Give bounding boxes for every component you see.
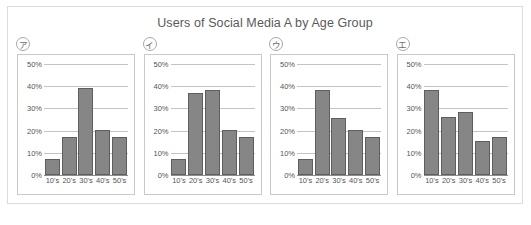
y-axis-tick-label: 0% xyxy=(158,171,169,180)
bar xyxy=(492,137,507,175)
bar xyxy=(315,90,330,175)
chart-panel-3: ウ0%10%20%30%40%50%10's20's30's40's50's xyxy=(266,37,393,197)
x-axis-tick-label: 20's xyxy=(188,176,203,185)
y-axis-tick-label: 20% xyxy=(406,126,421,135)
y-axis-tick-label: 50% xyxy=(280,60,295,69)
bar-slot xyxy=(62,64,77,175)
plot-area: 0%10%20%30%40%50%10's20's30's40's50's xyxy=(424,64,510,175)
plot-area: 0%10%20%30%40%50%10's20's30's40's50's xyxy=(171,64,257,175)
y-axis-tick-label: 20% xyxy=(153,126,168,135)
y-axis-tick-label: 40% xyxy=(27,82,42,91)
bar-slot xyxy=(171,64,186,175)
bar-slot xyxy=(78,64,93,175)
y-axis-tick-label: 0% xyxy=(31,171,42,180)
x-axis-tick-label: 30's xyxy=(331,176,346,185)
chart-panel-group: ア0%10%20%30%40%50%10's20's30's40's50'sイ0… xyxy=(13,37,519,197)
x-axis-tick-labels: 10's20's30's40's50's xyxy=(171,176,255,185)
bar-slot xyxy=(331,64,346,175)
chart-panel-1: ア0%10%20%30%40%50%10's20's30's40's50's xyxy=(13,37,140,197)
x-axis-tick-label: 40's xyxy=(348,176,363,185)
bar-slot xyxy=(424,64,439,175)
bar-slot xyxy=(441,64,456,175)
bar-slot xyxy=(475,64,490,175)
x-axis-tick-labels: 10's20's30's40's50's xyxy=(44,176,128,185)
bar xyxy=(62,137,77,175)
x-axis-tick-label: 20's xyxy=(62,176,77,185)
y-axis-tick-label: 10% xyxy=(153,148,168,157)
y-axis-tick-label: 20% xyxy=(280,126,295,135)
plot-area: 0%10%20%30%40%50%10's20's30's40's50's xyxy=(297,64,383,175)
bar xyxy=(365,137,380,175)
bar xyxy=(424,90,439,175)
x-axis-tick-label: 50's xyxy=(112,176,127,185)
bar xyxy=(441,117,456,175)
bar-slot xyxy=(222,64,237,175)
bar xyxy=(112,137,127,175)
page-title: Users of Social Media A by Age Group xyxy=(8,16,522,30)
bar-slot xyxy=(315,64,330,175)
bar-slot xyxy=(95,64,110,175)
bar-slot xyxy=(205,64,220,175)
y-axis-tick-label: 30% xyxy=(280,104,295,113)
chart-card-frame: Users of Social Media A by Age Group ア0%… xyxy=(7,6,523,204)
panel-plot-box: 0%10%20%30%40%50%10's20's30's40's50's xyxy=(270,54,388,195)
bar xyxy=(298,159,313,175)
y-axis-tick-label: 40% xyxy=(153,82,168,91)
bar-slot xyxy=(458,64,473,175)
x-axis-tick-label: 30's xyxy=(78,176,93,185)
bar-slot xyxy=(239,64,254,175)
chart-panel-2: イ0%10%20%30%40%50%10's20's30's40's50's xyxy=(140,37,267,197)
x-axis-tick-label: 30's xyxy=(205,176,220,185)
bar xyxy=(475,141,490,175)
bar xyxy=(78,88,93,175)
bar xyxy=(171,159,186,175)
panel-label-badge: イ xyxy=(143,37,157,51)
y-axis-tick-label: 40% xyxy=(406,82,421,91)
y-axis-tick-label: 10% xyxy=(27,148,42,157)
x-axis-tick-label: 40's xyxy=(222,176,237,185)
bar xyxy=(458,112,473,175)
x-axis-tick-labels: 10's20's30's40's50's xyxy=(297,176,381,185)
panel-label-badge: ウ xyxy=(269,37,283,51)
bar xyxy=(188,93,203,175)
x-axis-tick-labels: 10's20's30's40's50's xyxy=(424,176,508,185)
bar-series xyxy=(297,64,381,175)
plot-area: 0%10%20%30%40%50%10's20's30's40's50's xyxy=(44,64,130,175)
screenshot-root: Users of Social Media A by Age Group ア0%… xyxy=(0,0,531,225)
bar xyxy=(205,90,220,175)
bar-slot xyxy=(188,64,203,175)
bar xyxy=(95,130,110,176)
x-axis-tick-label: 40's xyxy=(475,176,490,185)
x-axis-tick-label: 10's xyxy=(45,176,60,185)
bar-series xyxy=(424,64,508,175)
bar-slot xyxy=(492,64,507,175)
y-axis-tick-label: 30% xyxy=(27,104,42,113)
bar-slot xyxy=(112,64,127,175)
panel-label-badge: ア xyxy=(16,37,30,51)
bar xyxy=(222,130,237,176)
panel-plot-box: 0%10%20%30%40%50%10's20's30's40's50's xyxy=(397,54,515,195)
bar xyxy=(331,118,346,175)
x-axis-tick-label: 50's xyxy=(239,176,254,185)
bar xyxy=(239,137,254,175)
x-axis-tick-label: 30's xyxy=(458,176,473,185)
y-axis-tick-label: 10% xyxy=(280,148,295,157)
x-axis-tick-label: 50's xyxy=(492,176,507,185)
y-axis-tick-label: 50% xyxy=(153,60,168,69)
y-axis-tick-label: 50% xyxy=(27,60,42,69)
bar-slot xyxy=(348,64,363,175)
bar-series xyxy=(171,64,255,175)
panel-plot-box: 0%10%20%30%40%50%10's20's30's40's50's xyxy=(17,54,135,195)
y-axis-tick-label: 30% xyxy=(153,104,168,113)
y-axis-tick-label: 50% xyxy=(406,60,421,69)
x-axis-tick-label: 10's xyxy=(171,176,186,185)
bar-series xyxy=(44,64,128,175)
y-axis-tick-label: 30% xyxy=(406,104,421,113)
x-axis-tick-label: 20's xyxy=(441,176,456,185)
y-axis-tick-label: 10% xyxy=(406,148,421,157)
y-axis-tick-label: 0% xyxy=(411,171,422,180)
x-axis-tick-label: 40's xyxy=(95,176,110,185)
chart-panel-4: エ0%10%20%30%40%50%10's20's30's40's50's xyxy=(393,37,520,197)
x-axis-tick-label: 10's xyxy=(298,176,313,185)
panel-label-badge: エ xyxy=(396,37,410,51)
